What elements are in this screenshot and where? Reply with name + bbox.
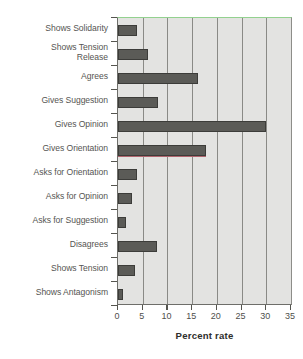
horizontal-bar-chart: Shows SolidarityShows TensionReleaseAgre… xyxy=(0,0,303,359)
x-axis-tick-label: 35 xyxy=(278,311,302,321)
category-label: Gives Suggestion xyxy=(0,96,108,106)
category-label: Asks for Opinion xyxy=(0,192,108,202)
category-axis-tick xyxy=(111,41,117,42)
gridline-30 xyxy=(266,18,267,304)
category-label-line: Disagrees xyxy=(0,240,108,250)
bar xyxy=(118,145,206,156)
gridline-25 xyxy=(242,18,243,304)
bar xyxy=(118,217,126,228)
bar xyxy=(118,241,157,252)
gridline-15 xyxy=(192,18,193,304)
x-axis-tick xyxy=(166,305,167,310)
bar xyxy=(118,289,123,300)
x-axis-tick xyxy=(117,305,118,310)
category-label-line: Asks for Orientation xyxy=(0,168,108,178)
category-axis-tick xyxy=(111,17,117,18)
x-axis-tick xyxy=(142,305,143,310)
category-label-line: Release xyxy=(0,53,108,63)
category-label-line: Gives Opinion xyxy=(0,120,108,130)
bar xyxy=(118,97,158,108)
category-label-line: Asks for Suggestion xyxy=(0,216,108,226)
x-axis-tick xyxy=(216,305,217,310)
gridline-10 xyxy=(167,18,168,304)
x-axis-tick-label: 5 xyxy=(130,311,154,321)
bar xyxy=(118,169,137,180)
category-axis-tick xyxy=(111,137,117,138)
category-label-line: Gives Suggestion xyxy=(0,96,108,106)
x-axis-tick xyxy=(290,305,291,310)
x-axis-tick-label: 25 xyxy=(229,311,253,321)
bar xyxy=(118,25,137,36)
bar xyxy=(118,121,266,132)
category-label: Gives Opinion xyxy=(0,120,108,130)
category-axis-tick xyxy=(111,113,117,114)
category-label: Asks for Orientation xyxy=(0,168,108,178)
category-label: Agrees xyxy=(0,72,108,82)
x-axis-tick-label: 20 xyxy=(204,311,228,321)
category-axis-tick xyxy=(111,89,117,90)
category-label-line: Asks for Opinion xyxy=(0,192,108,202)
x-axis-tick-label: 0 xyxy=(105,311,129,321)
category-axis-tick xyxy=(111,65,117,66)
category-label: Gives Orientation xyxy=(0,144,108,154)
x-axis-title: Percent rate xyxy=(117,330,292,341)
category-label-line: Shows Tension xyxy=(0,264,108,274)
category-axis-tick xyxy=(111,233,117,234)
bar xyxy=(118,73,198,84)
bar xyxy=(118,193,132,204)
category-axis-tick xyxy=(111,161,117,162)
category-label: Asks for Suggestion xyxy=(0,216,108,226)
category-label: Shows Antagonism xyxy=(0,288,108,298)
x-axis-tick xyxy=(265,305,266,310)
category-label: Shows TensionRelease xyxy=(0,43,108,62)
category-axis-tick xyxy=(111,257,117,258)
category-axis-tick xyxy=(111,281,117,282)
plot-area xyxy=(117,17,292,305)
x-axis-tick-label: 15 xyxy=(179,311,203,321)
category-label: Shows Tension xyxy=(0,264,108,274)
category-label: Disagrees xyxy=(0,240,108,250)
category-label-line: Shows Antagonism xyxy=(0,288,108,298)
category-label-line: Gives Orientation xyxy=(0,144,108,154)
x-axis-tick xyxy=(241,305,242,310)
category-axis-tick xyxy=(111,209,117,210)
gridline-20 xyxy=(217,18,218,304)
category-axis-labels: Shows SolidarityShows TensionReleaseAgre… xyxy=(0,17,112,305)
x-axis-tick xyxy=(191,305,192,310)
bar xyxy=(118,49,148,60)
bar-underline-annotation xyxy=(118,156,206,157)
gridline-5 xyxy=(143,18,144,304)
category-label-line: Shows Solidarity xyxy=(0,24,108,34)
x-axis-tick-label: 10 xyxy=(154,311,178,321)
x-axis-tick-label: 30 xyxy=(253,311,277,321)
bar xyxy=(118,265,135,276)
category-label-line: Agrees xyxy=(0,72,108,82)
category-label: Shows Solidarity xyxy=(0,24,108,34)
category-axis-tick xyxy=(111,185,117,186)
